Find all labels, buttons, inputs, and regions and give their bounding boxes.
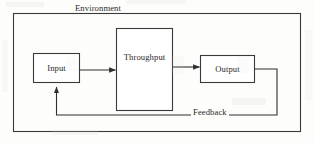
throughput-box	[117, 29, 173, 111]
throughput-label: Throughput	[116, 53, 173, 62]
diagram-canvas: Environment Input Throughput Output Feed…	[0, 0, 314, 143]
environment-label: Environment	[75, 4, 121, 13]
input-label: Input	[33, 64, 80, 73]
output-label: Output	[200, 65, 255, 74]
feedback-label: Feedback	[191, 108, 229, 117]
